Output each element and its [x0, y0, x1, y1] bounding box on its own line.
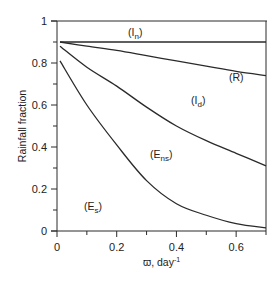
- region-label-Es: (Es): [84, 200, 102, 215]
- y-tick-label: 0: [41, 225, 47, 237]
- y-tick-label: 0.4: [32, 141, 47, 153]
- x-tick-label: 0.4: [169, 241, 184, 253]
- x-tick-label: 0.2: [109, 241, 124, 253]
- y-tick-label: 0.6: [32, 99, 47, 111]
- region-label-In: (In): [128, 26, 142, 41]
- y-tick-label: 0.2: [32, 183, 47, 195]
- x-axis-label-main: ϖ, day: [143, 256, 175, 268]
- curve-id-ens-boundary: [60, 46, 266, 166]
- x-axis-label: ϖ, day-1: [143, 256, 180, 268]
- y-tick-label: 1: [41, 15, 47, 27]
- x-tick-label: 0: [54, 241, 60, 253]
- rainfall-fraction-chart: 00.20.40.60.8100.20.40.6 Rainfall fracti…: [0, 0, 279, 284]
- x-tick-label: 0.6: [228, 241, 243, 253]
- y-tick-label: 0.8: [32, 57, 47, 69]
- region-label-Ens: (Ens): [150, 148, 172, 163]
- region-label-Id: (Id): [191, 94, 205, 109]
- region-label-R: (R): [229, 71, 244, 83]
- y-axis-label: Rainfall fraction: [16, 90, 28, 163]
- x-axis-label-sup: -1: [174, 256, 180, 263]
